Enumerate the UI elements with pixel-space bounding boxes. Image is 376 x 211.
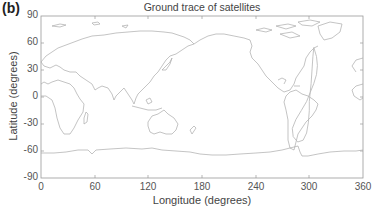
tick-marks [41, 16, 363, 178]
coastlines [41, 20, 363, 156]
axes-frame [41, 16, 363, 178]
